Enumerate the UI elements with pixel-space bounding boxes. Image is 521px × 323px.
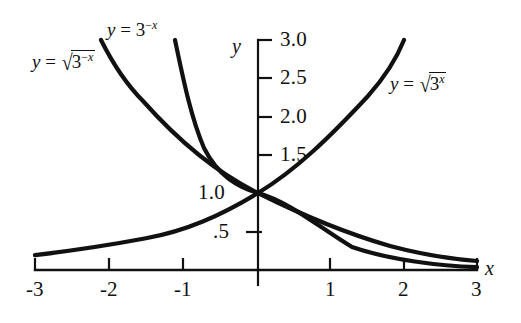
annotation-equals: = xyxy=(45,51,56,72)
annotation-exponent: −x xyxy=(81,50,93,64)
radicand: 3−x xyxy=(71,50,96,71)
annotation-lhs-y: y xyxy=(32,51,40,72)
x-tick-label-2: 2 xyxy=(398,279,409,300)
graph-figure: y x 3.0 2.5 2.0 1.5 1.0 .5 -3 -2 -1 1 2 … xyxy=(0,0,521,323)
annotation-equals: = xyxy=(403,73,414,94)
annotation-base: 3 xyxy=(136,19,146,40)
y-axis-label: y xyxy=(232,36,241,56)
radical-group: √3−x xyxy=(61,50,96,71)
sqrt-sign-icon: √ xyxy=(62,51,73,73)
y-tick-marks-upper xyxy=(258,40,272,155)
plot-canvas xyxy=(0,0,521,323)
annotation-lhs-y: y xyxy=(107,19,115,40)
annotation-equals: = xyxy=(120,19,131,40)
x-tick-label-neg-3: -3 xyxy=(26,279,44,300)
y-tick-label-1-5: 1.5 xyxy=(280,144,307,165)
radical-group: √3x xyxy=(419,72,447,93)
curve-annotation-sqrt-3-neg-x: y = √3−x xyxy=(32,50,95,71)
x-tick-label-neg-1: -1 xyxy=(174,279,192,300)
sqrt-sign-icon: √ xyxy=(420,73,431,95)
y-tick-label-1-0: 1.0 xyxy=(198,182,225,203)
curve-annotation-sqrt-3-x: y = √3x xyxy=(390,72,446,93)
y-tick-label-3-0: 3.0 xyxy=(280,29,307,50)
x-tick-label-3: 3 xyxy=(471,279,482,300)
curve-annotation-3-neg-x: y = 3−x xyxy=(107,20,157,39)
annotation-base: 3 xyxy=(430,73,440,94)
annotation-exponent: −x xyxy=(145,18,157,32)
x-tick-label-neg-2: -2 xyxy=(100,279,118,300)
x-axis-label: x xyxy=(485,258,494,278)
annotation-exponent: x xyxy=(439,72,444,86)
x-tick-label-1: 1 xyxy=(325,279,336,300)
y-tick-label-0-5: .5 xyxy=(213,221,229,242)
y-tick-label-2-5: 2.5 xyxy=(280,67,307,88)
annotation-base: 3 xyxy=(72,51,82,72)
radicand: 3x xyxy=(429,72,447,93)
annotation-lhs-y: y xyxy=(390,73,398,94)
y-tick-label-2-0: 2.0 xyxy=(280,106,307,127)
